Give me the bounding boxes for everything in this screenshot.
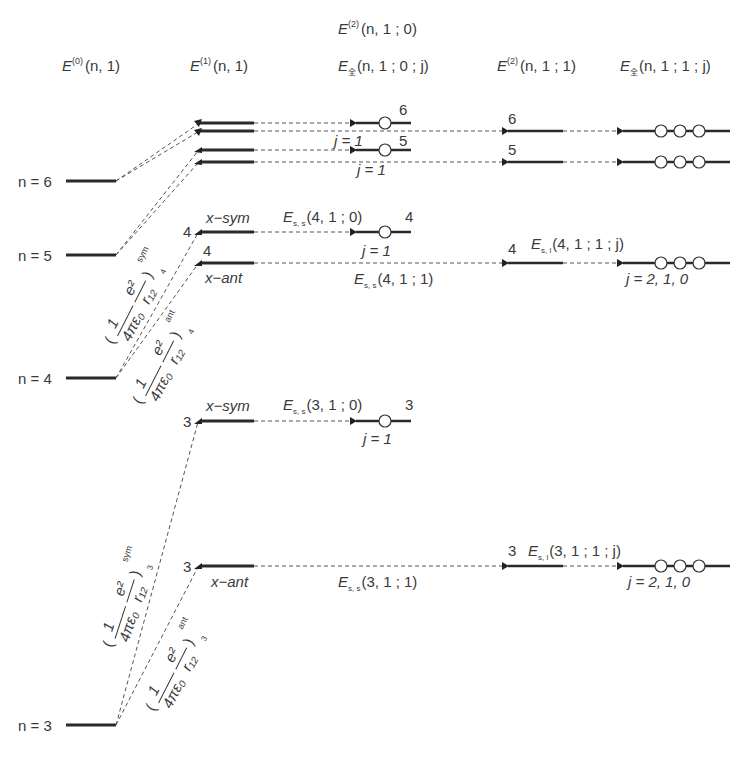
coulomb-term-n3-sym: ( 1 4πε₀ e² r₁₂ ) sym 3 — [93, 544, 160, 653]
j-label-triplet-3: j = 2, 1, 0 — [626, 573, 691, 590]
sublevel-circle — [674, 156, 686, 168]
header-col4: E全(n, 1 ; 1 ; j) — [620, 57, 711, 77]
label-n4-ant: 4 — [203, 242, 211, 259]
j-label-4: j = 1 — [360, 242, 391, 259]
svg-text:4πε₀: 4πε₀ — [115, 609, 141, 644]
sublevel-circle — [655, 257, 667, 269]
term-sl-3-1-1-j: Es, l(3, 1 ; 1 ; j) — [528, 542, 621, 562]
j-label-3: j = 1 — [361, 430, 392, 447]
level-num-6: 6 — [399, 101, 407, 118]
label-x-ant-3: x−ant — [210, 573, 249, 590]
svg-text:1: 1 — [131, 376, 150, 391]
svg-text:(: ( — [129, 394, 146, 406]
label-x-sym-4: x−sym — [205, 209, 250, 226]
sublevel-circle — [655, 125, 667, 137]
unperturbed-levels: n = 6 n = 5 n = 4 n = 3 — [18, 173, 116, 734]
level-label-n3: n = 3 — [18, 717, 52, 734]
column-headers: E(0)(n, 1) E(1)(n, 1) E(2)(n, 1 ; 0) E全(… — [62, 19, 711, 77]
arrowhead-icon — [194, 147, 202, 153]
sublevel-circle — [674, 125, 686, 137]
header-col3: E(2)(n, 1 ; 1) — [497, 56, 576, 74]
label-n4-sym: 4 — [183, 223, 191, 240]
svg-text:(: ( — [142, 701, 159, 713]
sublevel-circle — [379, 117, 391, 129]
svg-text:): ) — [180, 635, 197, 647]
sublevel-circle — [655, 156, 667, 168]
header-col2: E全(n, 1 ; 0 ; j) — [338, 57, 429, 77]
level-num-6-j1: 6 — [508, 110, 516, 127]
label-x-sym-3: x−sym — [205, 397, 250, 414]
term-ss-3-1-0: Es, s(3, 1 ; 0) — [283, 396, 362, 416]
term-ss-3-1-1: Es, s(3, 1 ; 1) — [338, 573, 417, 593]
svg-text:3: 3 — [199, 634, 209, 643]
j-label-5: j = 1 — [355, 161, 386, 178]
svg-text:r₁₂: r₁₂ — [137, 285, 159, 307]
svg-text:): ) — [126, 568, 144, 578]
level-num-5: 5 — [399, 132, 407, 149]
level-num-5-j1: 5 — [508, 141, 516, 158]
arrowhead-icon — [194, 563, 202, 569]
header-col2-top: E(2)(n, 1 ; 0) — [338, 19, 417, 37]
term-ss-4-1-0: Es, s(4, 1 ; 0) — [283, 208, 362, 228]
svg-text:4: 4 — [158, 267, 168, 276]
svg-text:ant: ant — [162, 308, 177, 324]
svg-text:4: 4 — [186, 327, 196, 336]
svg-text:ant: ant — [175, 615, 190, 631]
svg-text:3: 3 — [145, 564, 155, 572]
sublevel-circle — [379, 144, 391, 156]
first-order-levels: x−sym 4 4 x−ant x−sym 3 3 x−ant — [183, 119, 254, 590]
coulomb-term-n4-sym: ( 1 4πε₀ e² r₁₂ ) sym 4 — [95, 245, 175, 353]
sublevel-circle — [674, 257, 686, 269]
level-num-4-j1: 4 — [508, 240, 516, 257]
svg-text:4πε₀: 4πε₀ — [159, 675, 188, 711]
energy-level-diagram: E(0)(n, 1) E(1)(n, 1) E(2)(n, 1 ; 0) E全(… — [0, 0, 753, 757]
term-sl-4-1-1-j: Es, l(4, 1 ; 1 ; j) — [531, 235, 624, 255]
j-label-triplet-4: j = 2, 1, 0 — [624, 270, 689, 287]
j-label-6: j = 1 — [332, 132, 363, 149]
fine-structure-triplets: j = 2, 1, 0 j = 2, 1, 0 — [617, 125, 730, 590]
svg-text:1: 1 — [99, 620, 118, 633]
header-col0: E(0)(n, 1) — [62, 56, 120, 74]
svg-text:r₁₂: r₁₂ — [128, 584, 149, 604]
svg-text:): ) — [139, 268, 156, 280]
coulomb-term-n3-ant: ( 1 4πε₀ e² r₁₂ ) ant 3 — [136, 615, 214, 720]
svg-text:r₁₂: r₁₂ — [165, 345, 187, 367]
label-n3-sym: 3 — [183, 413, 191, 430]
arrowhead-icon — [194, 418, 202, 424]
sublevel-circle — [655, 560, 667, 572]
svg-text:1: 1 — [144, 683, 163, 698]
svg-text:4πε₀: 4πε₀ — [146, 368, 175, 404]
svg-text:r₁₂: r₁₂ — [178, 652, 200, 674]
level-num-4-j0: 4 — [405, 208, 413, 225]
arrowhead-icon — [194, 260, 202, 266]
level-label-n4: n = 4 — [18, 370, 52, 387]
arrowhead-icon — [194, 229, 202, 235]
sublevel-circle — [693, 257, 705, 269]
svg-text:sym: sym — [120, 544, 135, 563]
svg-text:1: 1 — [103, 316, 122, 331]
sublevel-circle — [674, 560, 686, 572]
svg-text:sym: sym — [134, 245, 150, 264]
sublevel-circle — [379, 415, 391, 427]
sublevel-circle — [693, 560, 705, 572]
sublevel-circle — [379, 226, 391, 238]
sublevel-circle — [693, 156, 705, 168]
sublevel-circle — [693, 125, 705, 137]
horizontal-connectors — [254, 123, 617, 566]
term-ss-4-1-1: Es, s(4, 1 ; 1) — [354, 270, 433, 290]
svg-text:e²: e² — [110, 579, 131, 598]
svg-text:4πε₀: 4πε₀ — [118, 308, 147, 344]
level-num-3-j1: 3 — [508, 542, 516, 559]
second-order-j1-levels: 6 5 4 Es, l(4, 1 ; 1 ; j) 3 Es, l(3, 1 ;… — [502, 110, 624, 570]
level-label-n5: n = 5 — [18, 247, 52, 264]
label-n3-ant: 3 — [183, 558, 191, 575]
header-col1: E(1)(n, 1) — [190, 56, 248, 74]
level-label-n6: n = 6 — [18, 173, 52, 190]
level-num-3-j0: 3 — [405, 396, 413, 413]
svg-text:(: ( — [101, 334, 118, 346]
label-x-ant-4: x−ant — [204, 269, 243, 286]
arrowhead-icon — [194, 159, 202, 165]
svg-text:(: ( — [99, 639, 117, 649]
svg-text:): ) — [167, 328, 184, 340]
